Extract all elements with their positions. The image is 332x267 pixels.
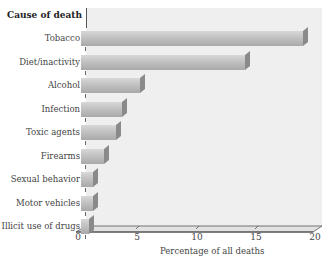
bar [81,172,93,187]
y-tick-mark [85,47,86,51]
category-label: Firearms [0,148,80,164]
x-axis-title: Percentage of all deaths [160,246,264,256]
bar [81,55,245,70]
bar-side-face [303,27,308,47]
x-tick-5: 5 [127,232,147,242]
y-tick-mark [85,165,86,169]
y-axis-line [86,8,87,28]
bar-side-face [89,215,94,235]
category-label: Alcohol [0,77,80,93]
bar-row: Infection [0,102,332,118]
bar-row: Alcohol [0,78,332,94]
bar-row: Tobacco [0,31,332,47]
bar-row: Motor vehicles [0,196,332,212]
bar-side-face [245,51,250,71]
y-tick-mark [85,141,86,145]
y-tick-mark [85,188,86,192]
bar-row: Sexual behavior [0,172,332,188]
x-tick-10: 10 [187,232,207,242]
bar [81,149,104,164]
bar-side-face [93,168,98,188]
bar-side-face [93,192,98,212]
x-tick-0: 0 [68,232,88,242]
x-tick-20: 20 [305,232,325,242]
y-tick-mark [85,212,86,216]
bar-side-face [104,145,109,165]
bar [81,31,303,46]
category-label: Tobacco [0,30,80,46]
category-label: Diet/inactivity [0,54,80,70]
bar-row: Toxic agents [0,125,332,141]
bar-side-face [122,98,127,118]
bar-row: Diet/inactivity [0,55,332,71]
x-tick-15: 15 [246,232,266,242]
bar-row: Illicit use of drugs [0,219,332,235]
bar [81,78,140,93]
category-label: Sexual behavior [0,171,80,187]
y-tick-mark [85,71,86,75]
category-label: Toxic agents [0,124,80,140]
bar-side-face [140,74,145,94]
bar [81,102,122,117]
bar-row: Firearms [0,149,332,165]
y-tick-mark [85,94,86,98]
category-label: Motor vehicles [0,195,80,211]
y-tick-mark [85,118,86,122]
bar [81,125,116,140]
bar-side-face [116,121,121,141]
bar [81,196,93,211]
category-label: Infection [0,101,80,117]
y-axis-title: Cause of death [0,10,82,20]
